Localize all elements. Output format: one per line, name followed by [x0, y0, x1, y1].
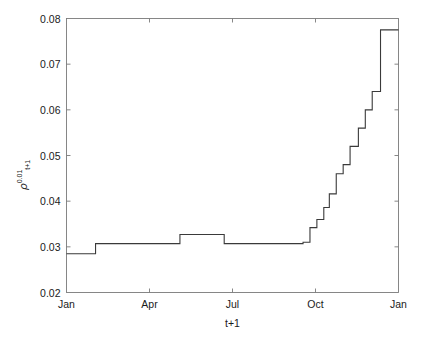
y-axis-label-superscript: 0.01 [16, 170, 23, 184]
x-tick-label: Oct [307, 299, 323, 310]
y-tick-label: 0.07 [40, 59, 60, 70]
x-axis-label: t+1 [225, 317, 240, 329]
x-tick-label: Jul [226, 299, 239, 310]
figure-canvas: 0.020.030.040.050.060.070.08 JanAprJulOc… [0, 0, 428, 340]
y-tick-label: 0.06 [40, 105, 60, 116]
y-tick-label: 0.05 [40, 150, 60, 161]
axes-box [67, 19, 399, 293]
y-axis-label: ρ0.01t+1 [14, 155, 32, 195]
data-series-line [67, 30, 399, 254]
axes-frame [67, 19, 399, 293]
x-tick-label: Apr [141, 299, 157, 310]
axis-ticks [67, 19, 399, 293]
x-tick-label: Jan [58, 299, 75, 310]
y-tick-label: 0.03 [40, 242, 60, 253]
y-axis-label-symbol: ρ [17, 183, 30, 190]
y-tick-label: 0.04 [40, 196, 60, 207]
chart-plot-area [0, 0, 428, 340]
y-tick-label: 0.02 [40, 287, 60, 298]
y-axis-label-subscript: t+1 [24, 160, 31, 170]
y-tick-label: 0.08 [40, 13, 60, 24]
x-tick-label: Jan [390, 299, 407, 310]
